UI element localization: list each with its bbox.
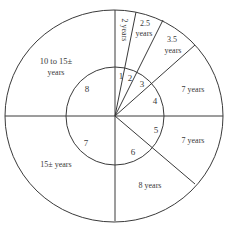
inner-segment-3: 3 — [140, 79, 145, 89]
outer-segment-8-label-line2: years — [48, 68, 65, 77]
inner-segment-1: 1 — [119, 71, 124, 81]
inner-segment-5: 5 — [154, 125, 159, 135]
outer-segment-2-label-line1: 2.5 — [140, 19, 150, 28]
concentric-diagram: 1 2 3 4 5 6 7 8 2 years 2.5 years 3.5 ye… — [0, 0, 237, 234]
spokes — [5, 10, 223, 221]
outer-segment-5-label: 7 years — [182, 136, 205, 145]
inner-segment-7: 7 — [84, 138, 89, 148]
outer-segment-8-label-line1: 10 to 15± — [40, 56, 73, 66]
inner-segment-2: 2 — [128, 73, 133, 83]
outer-segment-1-label: 2 years — [120, 19, 129, 42]
outer-segment-6-label: 8 years — [139, 181, 162, 190]
inner-segment-8: 8 — [85, 84, 90, 94]
outer-segment-7-label: 15± years — [40, 160, 71, 169]
outer-segment-3-label-line1: 3.5 — [167, 35, 177, 44]
outer-segment-3-label-line2: years — [165, 46, 182, 55]
inner-segment-4: 4 — [153, 96, 158, 106]
outer-segment-2-label-line2: years — [136, 29, 153, 38]
inner-segment-6: 6 — [131, 147, 136, 157]
outer-segment-4-label: 7 years — [182, 85, 205, 94]
